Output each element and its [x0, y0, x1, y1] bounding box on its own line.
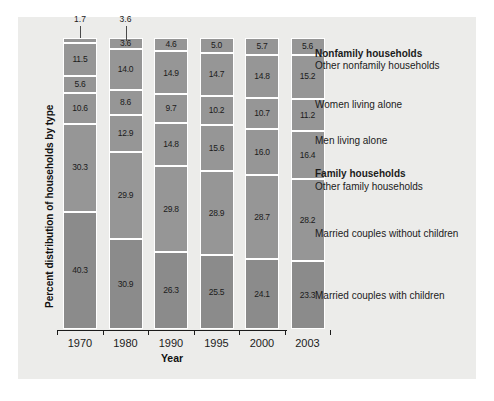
callout-leader-line [80, 26, 81, 38]
x-axis-tick [148, 330, 149, 335]
bar-1990: 26.329.814.89.714.94.6 [154, 38, 188, 329]
x-axis-tick [285, 330, 286, 335]
callout-value-label: 3.6 [109, 14, 143, 24]
bar-segment: 14.8 [245, 55, 279, 98]
segment-value-label: 28.2 [300, 216, 316, 225]
bar-2000: 24.128.716.010.714.85.7 [245, 38, 279, 329]
annotation-label: Men living alone [315, 135, 387, 146]
bar-segment: 10.6 [63, 93, 97, 124]
bar-1995: 25.528.915.610.214.75.0 [200, 38, 234, 329]
callout-value-label: 1.7 [63, 14, 97, 24]
bar-segment: 9.7 [154, 94, 188, 122]
bar-segment: 28.9 [200, 171, 234, 255]
annotation-label: Other nonfamily households [315, 60, 440, 71]
segment-value-label: 24.1 [254, 290, 270, 299]
x-axis-label-1980: 1980 [100, 337, 152, 349]
segment-value-label: 11.2 [300, 111, 315, 120]
segment-value-label: 28.7 [254, 213, 270, 222]
segment-value-label: 5.7 [256, 42, 267, 51]
segment-value-label: 5.0 [211, 41, 222, 50]
bar-segment: 25.5 [200, 255, 234, 329]
bar-segment: 14.0 [109, 49, 143, 90]
bar-segment: 4.6 [154, 38, 188, 51]
bar-segment: 5.6 [63, 76, 97, 92]
segment-value-label: 14.8 [163, 140, 179, 149]
bar-segment: 15.6 [200, 125, 234, 170]
bar-segment: 5.7 [245, 38, 279, 55]
x-axis-tick [330, 330, 331, 335]
annotation-label: Married couples without children [315, 228, 458, 239]
segment-value-label: 29.8 [163, 205, 179, 214]
bar-segment: 28.7 [245, 175, 279, 259]
segment-value-label: 5.6 [302, 42, 313, 51]
bar-segment: 24.1 [245, 259, 279, 329]
x-axis-title: Year [146, 352, 198, 364]
bar-segment: 40.3 [63, 212, 97, 329]
x-axis-line [57, 330, 287, 331]
callout-leader-line [126, 26, 127, 41]
y-axis-title: Percent distribution of households by ty… [44, 105, 55, 308]
bar-segment: 30.3 [63, 124, 97, 212]
bar-segment: 10.7 [245, 98, 279, 129]
bar-segment: 10.2 [200, 96, 234, 126]
bar-segment: 16.0 [245, 129, 279, 176]
annotation-label: Family households [315, 168, 406, 179]
segment-value-label: 5.6 [74, 80, 85, 89]
segment-value-label: 10.7 [254, 109, 270, 118]
segment-value-label: 15.2 [300, 72, 316, 81]
bar-segment: 26.3 [154, 252, 188, 329]
bar-segment: 14.7 [200, 53, 234, 96]
x-axis-label-2000: 2000 [236, 337, 288, 349]
segment-value-label: 9.7 [165, 104, 176, 113]
annotation-label: Other family households [315, 181, 423, 192]
segment-value-label: 15.6 [209, 144, 225, 153]
segment-value-label: 30.3 [72, 163, 88, 172]
segment-value-label: 11.5 [72, 55, 87, 64]
segment-value-label: 8.6 [120, 98, 131, 107]
bar-1970: 40.330.310.65.611.5 [63, 38, 97, 329]
segment-value-label: 23.3 [300, 291, 316, 300]
x-axis-label-1995: 1995 [191, 337, 243, 349]
segment-value-label: 30.9 [118, 280, 134, 289]
segment-value-label: 4.6 [165, 40, 176, 49]
bar-segment: 5.0 [200, 38, 234, 53]
x-axis-tick [239, 330, 240, 335]
stacked-bar-chart: Percent distribution of households by ty… [0, 0, 494, 401]
bar-segment [63, 38, 97, 43]
x-axis-tick [194, 330, 195, 335]
bar-segment: 11.5 [63, 43, 97, 76]
segment-value-label: 40.3 [72, 266, 88, 275]
segment-value-label: 16.0 [254, 148, 270, 157]
x-axis-label-1990: 1990 [145, 337, 197, 349]
segment-value-label: 14.8 [254, 72, 270, 81]
bar-segment: 14.9 [154, 51, 188, 94]
bar-segment: 30.9 [109, 239, 143, 329]
x-axis-label-1970: 1970 [54, 337, 106, 349]
bar-segment: 29.8 [154, 166, 188, 253]
segment-value-label: 12.9 [118, 129, 134, 138]
segment-value-label: 10.6 [72, 104, 88, 113]
bar-segment: 8.6 [109, 90, 143, 115]
segment-value-label: 10.2 [209, 106, 225, 115]
bar-segment: 29.9 [109, 152, 143, 239]
segment-value-label: 14.0 [118, 65, 134, 74]
segment-value-label: 28.9 [209, 209, 225, 218]
bar-segment: 12.9 [109, 115, 143, 153]
bar-segment: 14.8 [154, 123, 188, 166]
segment-value-label: 16.4 [300, 151, 316, 160]
x-axis-tick [57, 330, 58, 335]
bar-1980: 30.929.912.98.614.03.6 [109, 38, 143, 329]
segment-value-label: 26.3 [163, 286, 179, 295]
annotation-label: Women living alone [315, 99, 402, 110]
segment-value-label: 14.9 [163, 69, 179, 78]
segment-value-label: 25.5 [209, 288, 225, 297]
x-axis-label-2003: 2003 [282, 337, 334, 349]
segment-value-label: 14.7 [209, 70, 225, 79]
segment-value-label: 29.9 [118, 191, 134, 200]
annotation-label: Nonfamily households [315, 48, 422, 59]
x-axis-tick [103, 330, 104, 335]
annotation-label: Married couples with children [315, 290, 445, 301]
